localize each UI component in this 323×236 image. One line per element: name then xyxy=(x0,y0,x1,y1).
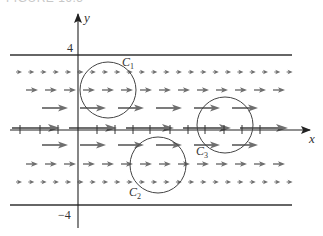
figure-caption: FIGURE 16.5 xyxy=(6,0,84,5)
label-c1: C1 xyxy=(122,55,134,71)
y-tick-neg4: −4 xyxy=(58,208,71,222)
y-axis-label: y xyxy=(82,10,90,25)
x-axis-label: x xyxy=(308,131,315,146)
vector-arrows xyxy=(12,70,293,184)
label-c2: C2 xyxy=(129,185,141,201)
vector-field-figure: FIGURE 16.5 y x 4 −4 C1 C2 C3 xyxy=(0,0,323,236)
y-tick-4: 4 xyxy=(67,41,73,55)
vector-field-plot: y x 4 −4 C1 C2 C3 xyxy=(0,0,323,236)
